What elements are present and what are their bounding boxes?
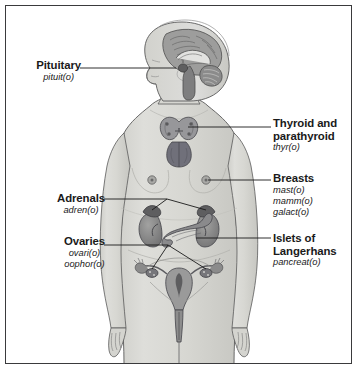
label-pituitary-combining-form: pituit(o) [36, 72, 81, 83]
label-adrenals: Adrenals adren(o) [57, 192, 105, 216]
label-islets-title-line1: Islets of [273, 232, 337, 245]
head-with-brain-section [145, 20, 229, 101]
label-adrenals-title: Adrenals [57, 192, 105, 205]
label-ovaries: Ovaries ovari(o) oophor(o) [64, 235, 105, 270]
label-breasts-combining-form-1: mast(o) [273, 185, 314, 196]
label-islets-combining-form: pancreat(o) [273, 257, 337, 268]
label-ovaries-combining-form-1: ovari(o) [64, 248, 105, 259]
label-pituitary-title: Pituitary [36, 59, 81, 72]
label-thyroid-combining-form: thyr(o) [273, 142, 337, 153]
label-islets-of-langerhans: Islets of Langerhans pancreat(o) [273, 232, 337, 268]
label-breasts-combining-form-2: mamm(o) [273, 196, 314, 207]
label-breasts: Breasts mast(o) mamm(o) galact(o) [273, 172, 314, 218]
label-pituitary: Pituitary pituit(o) [36, 59, 81, 83]
label-ovaries-title: Ovaries [64, 235, 105, 248]
label-adrenals-combining-form: adren(o) [57, 205, 105, 216]
diagram-page: Pituitary pituit(o) Adrenals adren(o) Ov… [0, 0, 357, 369]
label-thyroid-title-line2: parathyroid [273, 130, 337, 143]
label-breasts-title: Breasts [273, 172, 314, 185]
label-thyroid-and-parathyroid: Thyroid and parathyroid thyr(o) [273, 117, 337, 153]
label-breasts-combining-form-3: galact(o) [273, 207, 314, 218]
label-thyroid-title-line1: Thyroid and [273, 117, 337, 130]
label-ovaries-combining-form-2: oophor(o) [64, 259, 105, 270]
label-islets-title-line2: Langerhans [273, 245, 337, 258]
